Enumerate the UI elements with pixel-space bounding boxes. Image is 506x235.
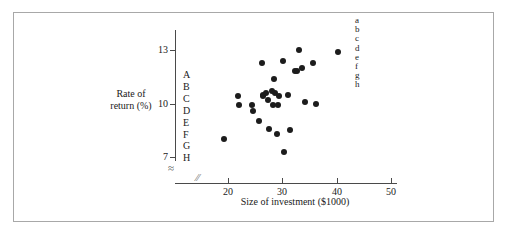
figure-container: ≈ ⁄⁄ 13 10 7 20 30 40 50 Rate of return …	[0, 0, 506, 235]
y-tick-7	[170, 157, 176, 158]
y-axis-label: Rate of return (%)	[100, 88, 162, 111]
data-point	[280, 58, 286, 64]
y-tick-10	[170, 104, 176, 105]
y-axis-letter-f: F	[183, 129, 190, 141]
y-axis-break-icon: ≈	[168, 163, 174, 174]
data-point	[296, 47, 302, 53]
data-point	[235, 93, 241, 99]
y-tick-label-13: 13	[150, 45, 168, 55]
x-axis-line	[175, 183, 397, 184]
data-point	[335, 49, 341, 55]
data-point	[285, 92, 291, 98]
x-axis-label: Size of investment ($1000)	[215, 196, 375, 207]
y-axis-label-line2: return (%)	[100, 100, 162, 112]
data-point	[266, 126, 272, 132]
x-axis-break-icon: ⁄⁄	[196, 172, 199, 183]
legend-letter-list: abcdefgh	[355, 16, 360, 90]
scatter-plot: ≈ ⁄⁄ 13 10 7 20 30 40 50 Rate of return …	[0, 0, 506, 235]
x-tick-label-50: 50	[381, 187, 401, 197]
x-tick-20	[228, 178, 229, 184]
data-point	[250, 108, 256, 114]
data-point	[236, 102, 242, 108]
data-point	[271, 76, 277, 82]
y-axis-letter-h: H	[183, 152, 190, 164]
data-point	[302, 99, 308, 105]
x-tick-50	[391, 178, 392, 184]
y-axis-letter-e: E	[183, 117, 190, 129]
y-axis-letter-c: C	[183, 93, 190, 105]
y-axis-letter-a: A	[183, 69, 190, 81]
x-tick-30	[282, 178, 283, 184]
data-point	[275, 102, 281, 108]
data-point	[221, 136, 227, 142]
y-axis-letter-list: ABCDEFGH	[183, 69, 190, 164]
y-tick-label-7: 7	[150, 152, 168, 162]
y-axis-label-line1: Rate of	[100, 88, 162, 100]
y-axis-letter-d: D	[183, 105, 190, 117]
x-tick-40	[337, 178, 338, 184]
legend-letter-h: h	[355, 80, 360, 89]
data-point	[276, 93, 282, 99]
data-point	[313, 101, 319, 107]
data-point	[310, 60, 316, 66]
data-point	[287, 127, 293, 133]
data-point	[299, 65, 305, 71]
data-point	[281, 149, 287, 155]
data-point	[256, 118, 262, 124]
data-point	[274, 131, 280, 137]
y-axis-letter-b: B	[183, 81, 190, 93]
data-point	[259, 60, 265, 66]
y-axis-letter-g: G	[183, 140, 190, 152]
y-tick-13	[170, 50, 176, 51]
